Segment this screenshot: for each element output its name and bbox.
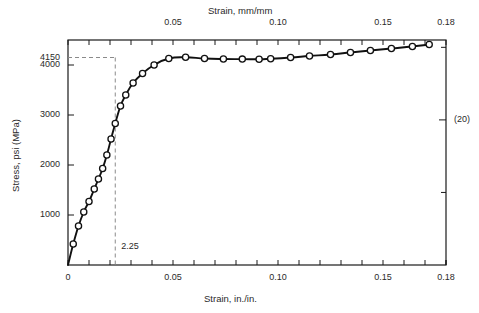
y-tick-left: 3000 — [40, 109, 60, 119]
x-tick-top: 0.18 — [437, 17, 455, 27]
x-tick-bottom: 0.15 — [374, 272, 392, 282]
y-tick-left: 2000 — [40, 159, 60, 169]
x-tick-bottom: 0.05 — [164, 272, 182, 282]
x-tick-top: 0.15 — [374, 17, 392, 27]
offset-yield-annotation: 2.25 — [121, 241, 139, 251]
x-tick-bottom: 0.10 — [269, 272, 287, 282]
chart-canvas — [0, 0, 479, 313]
x-tick-top: 0.05 — [164, 17, 182, 27]
y-tick-right: (20) — [454, 114, 470, 124]
x-tick-top: 0.10 — [269, 17, 287, 27]
y-tick-left: 1000 — [40, 209, 60, 219]
x-tick-bottom: 0 — [65, 272, 70, 282]
y-tick-yield: 4150 — [40, 52, 60, 62]
stress-strain-chart: Strain, mm/mm Strain, in./in. Stress, ps… — [0, 0, 479, 313]
x-tick-bottom: 0.18 — [437, 272, 455, 282]
